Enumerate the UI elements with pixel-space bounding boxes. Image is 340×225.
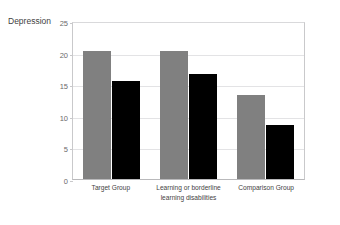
plot-area: 0510152025	[72, 22, 305, 180]
y-axis-tick-label: 0	[64, 177, 68, 186]
depression-bar-chart: Depression 0510152025 Target GroupLearni…	[0, 0, 340, 225]
y-axis-tickmark	[70, 181, 73, 182]
bar-group	[73, 23, 150, 179]
x-axis-label-line: Target Group	[74, 183, 148, 193]
bar	[160, 51, 188, 179]
y-axis-tick-label: 15	[60, 82, 68, 91]
bar	[266, 125, 294, 179]
y-axis-tick-label: 20	[60, 50, 68, 59]
bar	[83, 51, 111, 179]
bar	[189, 74, 217, 179]
x-axis-labels: Target GroupLearning or borderlinelearni…	[72, 183, 305, 202]
x-axis-label: Comparison Group	[227, 183, 305, 202]
bar-group	[227, 23, 304, 179]
bar	[237, 95, 265, 179]
bar	[112, 81, 140, 179]
x-axis-label: Learning or borderlinelearning disabilit…	[150, 183, 228, 202]
y-axis-title: Depression	[8, 16, 51, 26]
x-axis-label-line: learning disabilities	[152, 193, 226, 203]
x-axis-label-line: Learning or borderline	[152, 183, 226, 193]
cropped-header-sliver	[0, 0, 340, 7]
bar-group	[150, 23, 227, 179]
x-axis-label-line: Comparison Group	[229, 183, 303, 193]
y-axis-tick-label: 10	[60, 113, 68, 122]
bar-groups	[73, 23, 304, 179]
y-axis-tick-label: 25	[60, 19, 68, 28]
y-axis-tick-label: 5	[64, 145, 68, 154]
x-axis-label: Target Group	[72, 183, 150, 202]
